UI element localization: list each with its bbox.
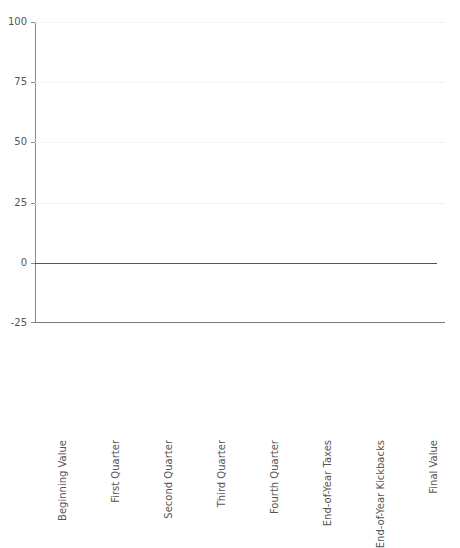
gridline-25 (35, 203, 445, 205)
gridline-50 (35, 142, 445, 144)
y-tick-25 (31, 203, 35, 204)
x-category-label-second-quarter: Second Quarter (163, 440, 174, 519)
x-category-label-end-of-year-taxes: End-of-Year Taxes (322, 440, 333, 526)
x-category-label-first-quarter: First Quarter (110, 440, 121, 503)
plot-area (35, 22, 445, 322)
y-axis-labels: 100 75 50 25 0 -25 (0, 22, 31, 323)
y-tick-label-minus25: -25 (11, 318, 27, 328)
gridline-zero (35, 263, 437, 264)
y-tick-75 (31, 82, 35, 83)
x-category-label-beginning-value: Beginning Value (57, 440, 68, 521)
y-tick-label-75: 75 (14, 77, 27, 87)
x-category-label-final-value: Final Value (428, 440, 439, 494)
y-tick-minus25 (31, 322, 35, 323)
x-category-label-fourth-quarter: Fourth Quarter (269, 440, 280, 514)
gridline-minus25 (35, 322, 445, 323)
y-tick-50 (31, 142, 35, 143)
y-tick-label-50: 50 (14, 137, 27, 147)
gridline-100 (35, 22, 445, 24)
y-tick-label-100: 100 (8, 17, 27, 27)
x-axis-labels: Beginning Value First Quarter Second Qua… (35, 326, 445, 446)
y-tick-label-0: 0 (21, 258, 27, 268)
y-tick-100 (31, 22, 35, 23)
x-category-label-end-of-year-kickbacks: End-of-Year Kickbacks (375, 440, 386, 548)
gridline-75 (35, 82, 445, 84)
y-tick-0 (31, 263, 35, 264)
y-tick-label-25: 25 (14, 198, 27, 208)
x-category-label-third-quarter: Third Quarter (216, 440, 227, 507)
